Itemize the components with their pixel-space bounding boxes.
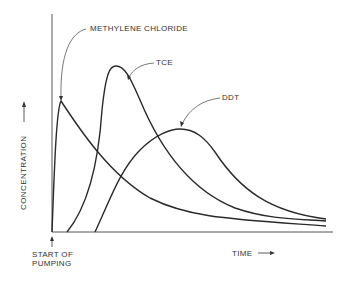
y-arrowhead-icon [22, 101, 26, 107]
start-label-line2: PUMPING [32, 259, 71, 268]
curve-methylene-chloride [52, 101, 326, 232]
label-ddt: DDT [222, 93, 239, 102]
chart-canvas [0, 0, 350, 282]
y-axis-label: CONCENTRATION [19, 136, 28, 210]
start-arrowhead-icon [50, 236, 54, 241]
leader-ddt [182, 98, 220, 124]
arrowhead-methylene [59, 96, 63, 101]
x-axis-label: TIME [232, 249, 252, 258]
leader-methylene [61, 29, 86, 98]
x-arrowhead-icon [270, 251, 275, 255]
start-label-line1: START OF [32, 250, 73, 259]
leader-tce [129, 63, 154, 77]
label-methylene-chloride: METHYLENE CHLORIDE [90, 24, 188, 33]
label-tce: TCE [156, 58, 173, 67]
